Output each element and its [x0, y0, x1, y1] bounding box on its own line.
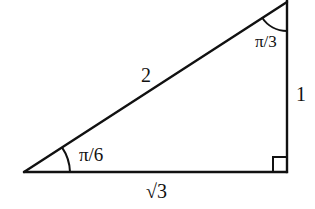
angle-label-pi-over-6: π/6: [79, 144, 103, 165]
angle-arc-pi-over-3-icon: [262, 18, 287, 32]
hypotenuse-line: [24, 2, 287, 172]
angle-arc-pi-over-6-icon: [62, 147, 70, 172]
hypotenuse-label: 2: [141, 64, 151, 86]
vertical-leg-label: 1: [296, 83, 306, 105]
horizontal-leg-label: √3: [146, 180, 167, 202]
right-triangle-diagram: 2 1 √3 π/6 π/3: [0, 0, 315, 209]
angle-label-pi-over-3: π/3: [255, 32, 277, 51]
right-angle-marker-icon: [273, 157, 287, 172]
